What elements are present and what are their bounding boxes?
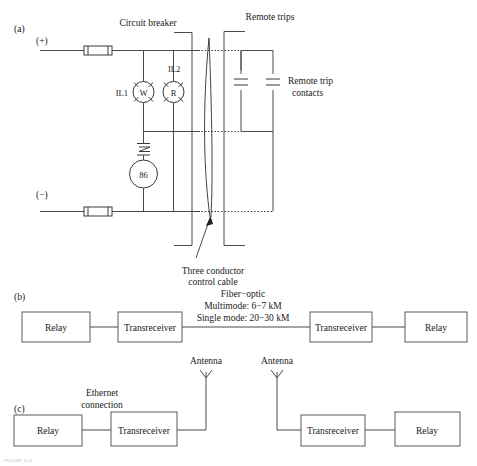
panel-c-relay-right-block[interactable]: Relay	[395, 412, 460, 446]
positive-rail-label: (+)	[36, 36, 48, 47]
lamp-white-letter: W	[139, 88, 147, 98]
antenna-right-icon	[271, 370, 283, 430]
panel-c-transreceiver-left-label: Transreceiver	[118, 426, 171, 436]
fiber-optic-note-line2: Multimode: 6−7 kM	[204, 301, 282, 311]
panel-a: (a) (+) (−) Circuit breaker Remote trips	[14, 12, 333, 287]
panel-b-relay-right-label: Relay	[425, 323, 447, 333]
cable-callout-arrow	[196, 216, 213, 258]
remote-trip-contacts-group	[234, 51, 280, 212]
lamp-red-tag: IL2	[168, 64, 180, 74]
fiber-optic-note-line3: Single mode: 20−30 kM	[197, 313, 290, 323]
panel-c-transreceiver-right-label: Transreceiver	[307, 426, 360, 436]
cable-label-line2: control cable	[188, 277, 237, 287]
panel-c-relay-right-label: Relay	[416, 426, 438, 436]
three-conductor-control-cable	[205, 38, 212, 217]
figure-container: (a) (+) (−) Circuit breaker Remote trips	[0, 0, 477, 466]
panel-c-relay-left-block[interactable]: Relay	[14, 415, 82, 446]
antenna-left-label: Antenna	[190, 356, 223, 366]
indicator-lamp-white: W	[133, 82, 154, 103]
panel-b-transreceiver-right-label: Transreceiver	[315, 323, 368, 333]
panel-b-transreceiver-right-block[interactable]: Transreceiver	[310, 312, 372, 342]
ethernet-label-line1: Ethernet	[86, 388, 119, 398]
remote-trip-contacts-label-line2: contacts	[292, 88, 323, 98]
remote-trips-enclosure	[224, 32, 245, 246]
figure-caption: FIGURE 11.6	[4, 458, 32, 463]
panel-a-letter: (a)	[14, 24, 25, 35]
panel-b-relay-left-label: Relay	[45, 323, 67, 333]
ethernet-label-line2: connection	[81, 400, 123, 410]
panel-c-transreceiver-right-block[interactable]: Transreceiver	[301, 415, 365, 446]
lamp-white-tag: IL1	[116, 88, 128, 98]
lockout-relay-86: 86	[130, 160, 158, 188]
panel-b-relay-left-block[interactable]: Relay	[22, 312, 90, 342]
panel-b-relay-right-block[interactable]: Relay	[405, 312, 467, 342]
circuit-breaker-label: Circuit breaker	[119, 18, 177, 28]
remote-trip-contacts-label-line1: Remote trip	[288, 76, 333, 86]
panel-c-transreceiver-left-block[interactable]: Transreceiver	[111, 412, 177, 446]
negative-rail-label: (−)	[36, 190, 48, 201]
lockout-contact-symbol	[137, 144, 150, 156]
remote-trips-label: Remote trips	[246, 12, 295, 22]
indicator-lamp-red: R	[163, 82, 184, 103]
antenna-right-label: Antenna	[261, 356, 294, 366]
panel-b-letter: (b)	[14, 292, 25, 303]
panel-b-transreceiver-left-block[interactable]: Transreceiver	[118, 312, 182, 342]
panel-b-transreceiver-left-label: Transreceiver	[124, 323, 177, 333]
panel-b: (b) Fiber−optic Multimode: 6−7 kM Single…	[14, 289, 467, 342]
fuse-negative	[84, 207, 112, 216]
panel-c-letter: (c)	[14, 404, 25, 415]
schematic-diagram: (a) (+) (−) Circuit breaker Remote trips	[0, 0, 477, 466]
fuse-positive	[84, 46, 112, 55]
cable-label-line1: Three conductor	[182, 266, 245, 276]
panel-c-relay-left-label: Relay	[37, 426, 59, 436]
antenna-left-icon	[200, 370, 212, 430]
panel-c: (c) Ethernet connection Antenna Antenna	[14, 356, 460, 446]
lamp-red-letter: R	[171, 88, 177, 98]
fiber-optic-note-line1: Fiber−optic	[221, 289, 265, 299]
lockout-relay-label: 86	[139, 170, 148, 180]
